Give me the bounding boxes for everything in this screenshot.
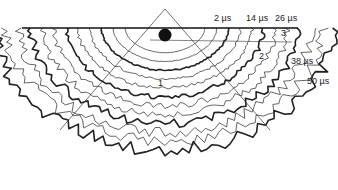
contour-line: [1, 28, 328, 146]
time-label-50us: 50 µs: [307, 77, 329, 86]
oblique-line: [150, 40, 292, 42]
region-label-2: 2: [259, 52, 264, 61]
contour-line: [0, 28, 338, 156]
time-label-2us: 2 µs: [214, 14, 231, 23]
contour-line: [15, 28, 316, 137]
source-dot: [159, 29, 172, 42]
isochron-diagram: [0, 0, 338, 190]
time-label-26us: 26 µs: [275, 14, 297, 23]
region-label-3: 3: [281, 29, 286, 38]
cone-outline: [60, 9, 270, 130]
time-label-14us: 14 µs: [246, 14, 268, 23]
contour-line: [28, 28, 301, 127]
contour-lines: [0, 28, 338, 156]
region-label-1: 1: [158, 79, 163, 88]
time-label-38us: 38 µs: [291, 57, 313, 66]
